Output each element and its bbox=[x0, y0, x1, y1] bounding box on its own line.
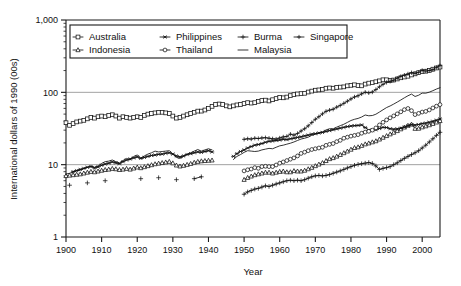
legend-item-label: Thailand bbox=[176, 44, 212, 55]
y-tick-label: 100 bbox=[43, 88, 58, 98]
chart-legend: AustraliaPhilippinesBurmaSingaporeIndone… bbox=[70, 25, 353, 58]
legend-item-label: Australia bbox=[89, 31, 127, 42]
marker-circle bbox=[385, 118, 389, 122]
marker-circle bbox=[395, 112, 399, 116]
marker-circle bbox=[406, 107, 410, 111]
legend-item-label: Malaysia bbox=[254, 44, 292, 55]
y-tick-label: 1 bbox=[53, 232, 58, 242]
marker-circle bbox=[399, 110, 403, 114]
x-tick-label: 2000 bbox=[412, 245, 432, 255]
marker-circle bbox=[274, 163, 278, 167]
x-tick-label: 1910 bbox=[92, 245, 112, 255]
marker-circle bbox=[370, 128, 374, 132]
x-tick-label: 1970 bbox=[305, 245, 325, 255]
marker-circle bbox=[392, 114, 396, 118]
marker-circle bbox=[349, 134, 353, 138]
marker-circle bbox=[378, 123, 382, 127]
x-tick-label: 1900 bbox=[56, 245, 76, 255]
x-axis-title: Year bbox=[243, 266, 262, 277]
marker-circle bbox=[253, 166, 257, 170]
marker-circle bbox=[317, 146, 321, 150]
x-tick-label: 1960 bbox=[270, 245, 290, 255]
legend-item-label: Philippines bbox=[176, 31, 222, 42]
x-tick-label: 1990 bbox=[377, 245, 397, 255]
x-tick-label: 1920 bbox=[127, 245, 147, 255]
marker-circle bbox=[338, 138, 342, 142]
marker-circle bbox=[438, 103, 442, 107]
x-tick-label: 1940 bbox=[198, 245, 218, 255]
marker-circle bbox=[363, 130, 367, 134]
marker-circle bbox=[246, 168, 250, 172]
marker-circle bbox=[321, 145, 325, 149]
marker-circle bbox=[420, 110, 424, 114]
marker-circle bbox=[374, 126, 378, 130]
marker-circle bbox=[163, 48, 167, 52]
marker-square bbox=[76, 35, 80, 39]
x-tick-label: 1930 bbox=[163, 245, 183, 255]
marker-circle bbox=[331, 142, 335, 146]
marker-circle bbox=[292, 156, 296, 160]
x-tick-label: 1980 bbox=[341, 245, 361, 255]
marker-circle bbox=[427, 108, 431, 112]
legend-item-label: Singapore bbox=[310, 31, 353, 42]
marker-circle bbox=[410, 109, 414, 113]
marker-circle bbox=[296, 154, 300, 158]
y-tick-label: 10 bbox=[48, 160, 58, 170]
chart-canvas: 1101001,000 1900191019201930194019501960… bbox=[0, 0, 461, 286]
y-tick-label: 1,000 bbox=[35, 15, 58, 25]
y-axis-title: International dollars of 1990 (00s) bbox=[8, 58, 19, 200]
legend-item-label: Burma bbox=[254, 31, 283, 42]
marker-circle bbox=[328, 142, 332, 146]
marker-circle bbox=[388, 116, 392, 120]
marker-circle bbox=[310, 148, 314, 152]
marker-circle bbox=[353, 133, 357, 137]
marker-circle bbox=[313, 147, 317, 151]
marker-circle bbox=[431, 106, 435, 110]
legend-item-label: Indonesia bbox=[89, 44, 131, 55]
chart-figure: 1101001,000 1900191019201930194019501960… bbox=[0, 0, 461, 286]
marker-circle bbox=[381, 120, 385, 124]
x-tick-label: 1950 bbox=[234, 245, 254, 255]
